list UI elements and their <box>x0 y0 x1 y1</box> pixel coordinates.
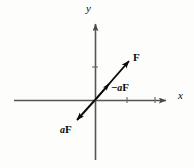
vector-aF-arrow <box>77 100 95 120</box>
vector-aF-label: aF <box>60 124 72 135</box>
vector-minus-aF-arrow <box>96 84 109 99</box>
vector-minus-aF-label-name: F <box>122 81 129 93</box>
y-axis-label: y <box>86 3 91 14</box>
figure-canvas <box>0 0 194 168</box>
vector-aF-label-name: F <box>65 123 72 135</box>
vector-F-label-name: F <box>133 51 140 63</box>
x-axis-label: x <box>178 90 183 101</box>
vector-minus-aF-label: −aF <box>111 82 129 93</box>
vector-F-label: F <box>133 52 140 63</box>
vector-diagram-figure: y x F −aF aF <box>0 0 194 168</box>
